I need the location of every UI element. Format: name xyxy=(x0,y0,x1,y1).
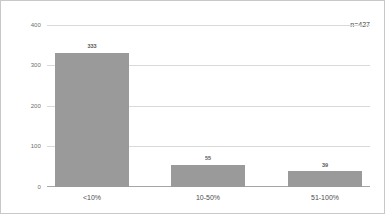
y-tick-label-0: 0 xyxy=(11,184,41,190)
x-tick-label-2: 51-100% xyxy=(288,194,362,201)
plot-area: 333 55 39 xyxy=(47,25,370,187)
y-tick-label-100: 100 xyxy=(11,143,41,149)
y-tick-label-200: 200 xyxy=(11,103,41,109)
bar-value-label-2: 39 xyxy=(288,163,362,169)
y-tick-label-400: 400 xyxy=(11,22,41,28)
bar-value-label-1: 55 xyxy=(171,156,245,162)
bar-slot-0: 333 xyxy=(55,25,129,187)
bar-chart-figure: n=427 400 300 200 100 0 333 55 39 <10% 1… xyxy=(0,0,385,214)
bar-slot-2: 39 xyxy=(288,25,362,187)
y-tick-label-300: 300 xyxy=(11,62,41,68)
bar-category-1[interactable] xyxy=(171,165,245,187)
bar-value-label-0: 333 xyxy=(55,44,129,50)
bar-category-2[interactable] xyxy=(288,171,362,187)
bar-slot-1: 55 xyxy=(171,25,245,187)
x-tick-label-0: <10% xyxy=(55,194,129,201)
bar-category-0[interactable] xyxy=(55,53,129,187)
x-tick-label-1: 10-50% xyxy=(171,194,245,201)
